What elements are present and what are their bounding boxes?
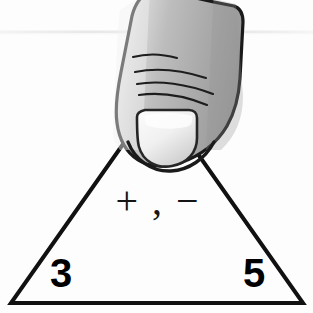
fingernail-highlight	[144, 113, 192, 129]
flashcard-canvas: + , − 3 5	[0, 0, 313, 313]
bottom-right-number: 5	[243, 253, 265, 293]
bottom-left-number: 3	[50, 253, 72, 293]
operators-label: + , −	[112, 179, 204, 223]
flashcard-artwork	[0, 0, 313, 313]
